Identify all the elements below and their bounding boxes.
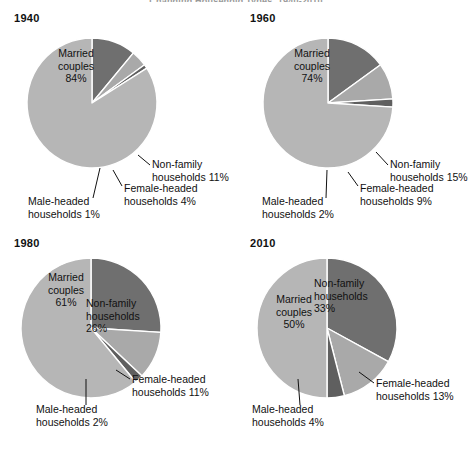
- slice-label-female-1980: Female-headed households 11%: [132, 373, 209, 398]
- nonfamily-label-line2: households: [314, 290, 368, 303]
- panel-year-label-1960: 1960: [250, 12, 276, 24]
- panel-year-label-1940: 1940: [14, 12, 40, 24]
- pie-panel-1960: 1960 Married couples 74% Non-family hous…: [236, 0, 472, 227]
- slice-label-male-1940: Male-headed households 1%: [28, 195, 100, 220]
- slice-label-nonfamily-2010: Non-family households 33%: [314, 277, 368, 315]
- nonfamily-label-line3: 26%: [86, 322, 140, 335]
- female-label-line1: Female-headed: [132, 373, 209, 386]
- slice-label-male-2010: Male-headed households 4%: [252, 403, 324, 428]
- nonfamily-label-line1: Non-family: [314, 277, 368, 290]
- married-label-line2: couples: [38, 60, 114, 73]
- female-label-line1: Female-headed: [376, 377, 454, 390]
- male-label-line2: households 2%: [36, 416, 108, 429]
- male-label-line2: households 4%: [252, 416, 324, 429]
- married-label-line3: 74%: [274, 72, 350, 85]
- slice-label-female-1960: Female-headed households 9%: [360, 182, 434, 207]
- panel-year-label-1980: 1980: [14, 237, 40, 249]
- female-label-line1: Female-headed: [360, 182, 434, 195]
- married-label-line3: 84%: [38, 72, 114, 85]
- married-label-line2: couples: [30, 284, 102, 297]
- male-label-line2: households 1%: [28, 208, 100, 221]
- figure-container: Changing Household Types, 1940-2010 1940…: [0, 0, 472, 454]
- slice-label-married-1960: Married couples 74%: [274, 47, 350, 85]
- married-label-line1: Married: [30, 271, 102, 284]
- slice-label-male-1980: Male-headed households 2%: [36, 403, 108, 428]
- female-label-line2: households 4%: [124, 195, 198, 208]
- pie-panel-1940: 1940 Married couples 84% Non-family hous…: [0, 0, 236, 227]
- slice-label-female-1940: Female-headed households 4%: [124, 182, 198, 207]
- female-label-line2: households 11%: [132, 386, 209, 399]
- nonfamily-label-line2: households: [86, 310, 140, 323]
- female-label-line2: households 13%: [376, 390, 454, 403]
- married-label-line1: Married: [38, 47, 114, 60]
- male-label-line1: Male-headed: [252, 403, 324, 416]
- slice-label-nonfamily-1960: Non-family households 15%: [390, 158, 468, 183]
- female-label-line2: households 9%: [360, 195, 434, 208]
- male-label-line1: Male-headed: [262, 195, 334, 208]
- nonfamily-label-line1: Non-family: [390, 158, 468, 171]
- married-label-line2: couples: [274, 60, 350, 73]
- married-label-line3: 50%: [258, 318, 330, 331]
- nonfamily-label-line3: 33%: [314, 302, 368, 315]
- pie-panel-1980: 1980 Married couples 61% Non-family hous…: [0, 227, 236, 454]
- male-label-line2: households 2%: [262, 208, 334, 221]
- male-label-line1: Male-headed: [28, 195, 100, 208]
- nonfamily-label-line1: Non-family: [152, 158, 229, 171]
- panel-year-label-2010: 2010: [250, 237, 276, 249]
- nonfamily-label-line1: Non-family: [86, 297, 140, 310]
- slice-label-nonfamily-1980: Non-family households 26%: [86, 297, 140, 335]
- married-label-line1: Married: [274, 47, 350, 60]
- pie-panel-2010: 2010 Married couples 50% Non-family hous…: [236, 227, 472, 454]
- male-label-line1: Male-headed: [36, 403, 108, 416]
- slice-label-married-1940: Married couples 84%: [38, 47, 114, 85]
- female-label-line1: Female-headed: [124, 182, 198, 195]
- slice-label-male-1960: Male-headed households 2%: [262, 195, 334, 220]
- slice-label-nonfamily-1940: Non-family households 11%: [152, 158, 229, 183]
- slice-label-female-2010: Female-headed households 13%: [376, 377, 454, 402]
